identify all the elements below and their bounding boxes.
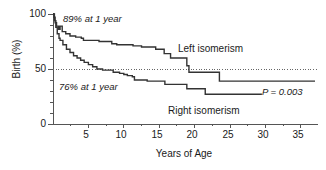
x-tick-label-5: 5	[71, 130, 101, 140]
right-isomerism-label: Right isomerism	[168, 106, 240, 116]
y-tick-label-0: 0	[24, 119, 46, 129]
y-tick-label-50: 50	[24, 64, 46, 74]
x-tick-label-10: 10	[106, 130, 136, 140]
y-tick-label-100: 100	[24, 9, 46, 19]
left-one-year-annotation: 89% at 1 year	[63, 14, 122, 24]
x-tick-label-20: 20	[177, 130, 207, 140]
left-isomerism-label: Left isomerism	[178, 44, 243, 54]
x-tick-label-35: 35	[283, 130, 313, 140]
right-one-year-annotation: 76% at 1 year	[59, 82, 118, 92]
x-tick-label-30: 30	[248, 130, 278, 140]
plot-area	[0, 0, 326, 170]
x-tick-label-15: 15	[142, 130, 172, 140]
kaplan-meier-figure: 100 50 0 5 10 15 20 25 30 35 Birth (%) Y…	[0, 0, 326, 170]
x-tick-label-25: 25	[213, 130, 243, 140]
x-axis-title: Years of Age	[53, 149, 315, 159]
p-value-label: P = 0.003	[262, 87, 303, 97]
y-axis-title: Birth (%)	[12, 23, 22, 95]
